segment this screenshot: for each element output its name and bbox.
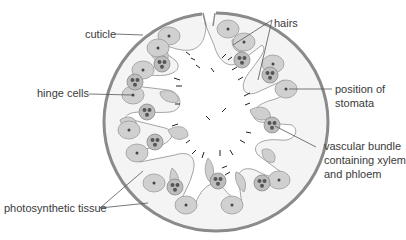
label-stomata-line2: stomata	[335, 97, 385, 109]
label-position-of-stomata: position of stomata	[335, 83, 385, 109]
label-cuticle: cuticle	[85, 28, 116, 40]
label-vascular-line3: and phloem	[324, 168, 406, 180]
label-vascular-line1: vascular bundle	[324, 140, 406, 152]
label-photosynthetic-tissue: photosynthetic tissue	[4, 202, 107, 214]
label-hairs: hairs	[274, 17, 298, 29]
label-vascular-line2: containing xylem	[324, 154, 406, 166]
label-vascular-bundle: vascular bundle containing xylem and phl…	[324, 140, 406, 180]
label-stomata-line1: position of	[335, 83, 385, 95]
label-hinge-cells: hinge cells	[37, 87, 89, 99]
